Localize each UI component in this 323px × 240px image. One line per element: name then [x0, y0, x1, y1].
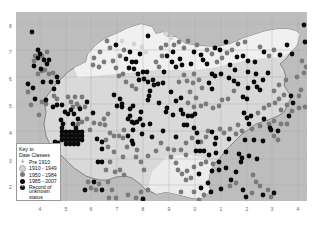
record-1985-2007 — [55, 75, 60, 80]
record-1985-2007 — [213, 142, 218, 147]
record-1985-2007 — [192, 126, 197, 131]
record-1985-2007 — [241, 54, 246, 59]
record-1950-1984 — [277, 83, 282, 88]
record-1950-1984 — [285, 122, 290, 127]
record-1985-2007 — [126, 117, 131, 122]
record-1985-2007 — [228, 63, 233, 68]
record-1950-1984 — [89, 186, 94, 191]
record-1950-1984 — [279, 108, 284, 113]
record-1985-2007 — [243, 138, 248, 143]
x-axis-label: 3 — [271, 207, 274, 212]
record-1950-1984 — [190, 136, 195, 141]
record-1950-1984 — [188, 90, 193, 95]
record-1950-1984 — [85, 117, 90, 122]
record-1950-1984 — [146, 154, 151, 159]
record-1985-2007 — [214, 151, 219, 156]
record-1985-2007 — [161, 81, 166, 86]
record-1950-1984 — [194, 96, 199, 101]
record-1985-2007 — [261, 139, 266, 144]
record-1950-1984 — [172, 148, 177, 153]
record-1910-1949 — [132, 42, 137, 47]
record-1985-2007 — [224, 166, 229, 171]
record-1950-1984 — [112, 150, 117, 155]
record-1985-2007 — [69, 108, 74, 113]
record-1950-1984 — [125, 145, 130, 150]
record-1985-2007 — [136, 72, 141, 77]
record-1950-1984 — [297, 94, 302, 99]
record-1950-1984 — [232, 89, 237, 94]
record-1985-2007 — [150, 135, 155, 140]
record-1985-2007 — [210, 87, 215, 92]
record-1910-1949 — [120, 39, 125, 44]
record-1950-1984 — [83, 105, 88, 110]
record-1985-2007 — [83, 188, 88, 193]
record-1950-1984 — [182, 73, 187, 78]
record-1985-2007 — [258, 88, 263, 93]
record-1985-2007 — [137, 78, 142, 83]
record-1985-2007 — [39, 67, 44, 72]
record-1985-2007 — [146, 80, 151, 85]
record-1985-2007 — [174, 135, 179, 140]
record-1950-1984 — [302, 71, 307, 76]
record-1950-1984 — [94, 188, 99, 193]
record-1950-1984 — [111, 59, 116, 64]
record-1950-1984 — [297, 106, 302, 111]
record-1950-1984 — [98, 50, 103, 55]
record-1950-1984 — [192, 190, 197, 195]
y-axis-label: 2 — [9, 185, 12, 190]
record-1985-2007 — [253, 60, 258, 65]
record-1985-2007 — [115, 104, 120, 109]
x-axis-label: 6 — [90, 207, 93, 212]
record-1985-2007 — [100, 140, 105, 145]
record-1985-2007 — [272, 191, 277, 196]
record-1985-2007 — [290, 52, 295, 57]
record-1985-2007 — [255, 157, 260, 162]
record-1950-1984 — [185, 169, 190, 174]
record-1985-2007 — [219, 72, 224, 77]
record-1985-2007 — [148, 122, 153, 127]
record-1985-2007 — [252, 138, 257, 143]
record-1950-1984 — [176, 168, 181, 173]
record-1950-1984 — [69, 100, 74, 105]
record-1950-1984 — [121, 72, 126, 77]
record-1985-2007 — [217, 160, 222, 165]
record-1950-1984 — [102, 117, 107, 122]
record-1950-1984 — [92, 121, 97, 126]
record-1950-1984 — [279, 122, 284, 127]
record-1950-1984 — [29, 103, 34, 108]
record-1985-2007 — [161, 129, 166, 134]
record-1985-2007 — [244, 195, 249, 200]
record-1950-1984 — [184, 178, 189, 183]
record-1985-2007 — [174, 99, 179, 104]
record-1950-1984 — [121, 155, 126, 160]
record-1950-1984 — [234, 181, 239, 186]
record-1950-1984 — [118, 54, 123, 59]
x-axis-label: 9 — [168, 207, 171, 212]
record-1950-1984 — [177, 40, 182, 45]
record-1985-2007 — [26, 82, 31, 87]
x-axis-label: 2 — [246, 207, 249, 212]
record-1950-1984 — [139, 160, 144, 165]
record-1985-2007 — [247, 122, 252, 127]
record-1950-1984 — [191, 81, 196, 86]
record-1950-1984 — [172, 43, 177, 48]
record-1985-2007 — [202, 149, 207, 154]
record-1985-2007 — [139, 110, 144, 115]
record-1950-1984 — [186, 101, 191, 106]
record-1985-2007 — [180, 63, 185, 68]
record-1950-1984 — [108, 131, 113, 136]
record-1985-2007 — [76, 117, 81, 122]
record-1985-2007 — [178, 57, 183, 62]
record-1950-1984 — [73, 95, 78, 100]
record-1950-1984 — [51, 71, 56, 76]
record-1950-1984 — [174, 161, 179, 166]
x-axis-label: 4 — [297, 207, 300, 212]
record-1985-2007 — [85, 100, 90, 105]
record-1910-1949 — [164, 32, 169, 37]
record-1985-2007 — [262, 117, 267, 122]
record-1950-1984 — [258, 124, 263, 129]
record-1950-1984 — [272, 48, 277, 53]
record-1950-1984 — [159, 46, 164, 51]
record-1985-2007 — [124, 57, 129, 62]
record-1950-1984 — [250, 127, 255, 132]
